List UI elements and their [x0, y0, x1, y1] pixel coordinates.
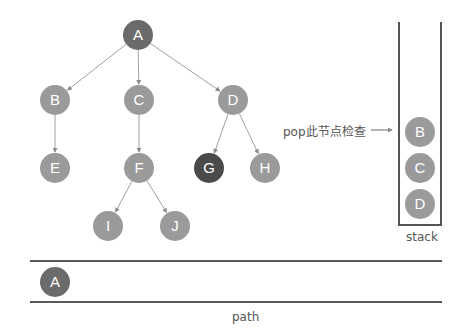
path-label: path — [232, 310, 259, 324]
stack-bottom-wall — [398, 224, 442, 226]
tree-edge-A-D — [150, 43, 219, 90]
path-item: A — [40, 267, 70, 297]
tree-node-G: G — [194, 153, 224, 183]
stack-label: stack — [406, 230, 438, 244]
tree-edge-A-B — [68, 44, 127, 90]
tree-node-I: I — [93, 211, 123, 241]
stack-left-wall — [398, 22, 400, 226]
tree-node-J: J — [160, 211, 190, 241]
stack-item: B — [405, 117, 435, 147]
tree-edge-F-J — [147, 181, 167, 213]
tree-node-B: B — [40, 85, 70, 115]
annotation-label: pop此节点检查 — [283, 122, 366, 139]
tree-edge-F-I — [116, 181, 132, 212]
path-top-line — [30, 260, 442, 262]
tree-edge-A-C — [138, 50, 139, 84]
stack-item: C — [405, 153, 435, 183]
tree-edge-D-H — [239, 114, 258, 154]
path-bottom-line — [30, 301, 442, 303]
tree-node-E: E — [40, 153, 70, 183]
tree-node-H: H — [250, 153, 280, 183]
tree-edge-D-G — [214, 114, 228, 153]
stack-item: D — [405, 189, 435, 219]
tree-node-F: F — [124, 153, 154, 183]
tree-node-A: A — [123, 20, 153, 50]
tree-node-D: D — [218, 85, 248, 115]
tree-node-C: C — [124, 85, 154, 115]
stack-right-wall — [440, 22, 442, 226]
